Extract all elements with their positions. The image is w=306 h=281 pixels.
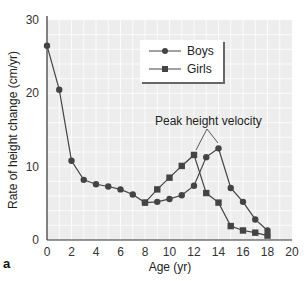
data-point-square-icon — [179, 163, 185, 169]
legend-marker-circle-icon — [162, 48, 168, 54]
x-tick-label: 18 — [261, 245, 275, 259]
x-tick-label: 16 — [236, 245, 250, 259]
data-point-circle-icon — [117, 186, 123, 192]
data-point-circle-icon — [44, 42, 50, 48]
data-point-circle-icon — [191, 183, 197, 189]
annotation-text: Peak height velocity — [155, 114, 262, 128]
x-tick-label: 8 — [142, 245, 149, 259]
y-axis-label: Rate of height change (cm/yr) — [6, 51, 20, 209]
legend-label-boys: Boys — [187, 44, 214, 58]
data-point-square-icon — [166, 174, 172, 180]
x-axis-label: Age (yr) — [149, 260, 192, 274]
data-point-circle-icon — [240, 199, 246, 205]
x-tick-label: 0 — [44, 245, 51, 259]
height-velocity-chart: 0102030 02468101214161820 Peak height ve… — [0, 0, 306, 281]
x-tick-label: 10 — [163, 245, 177, 259]
x-tick-label: 20 — [285, 245, 299, 259]
data-point-circle-icon — [81, 177, 87, 183]
y-tick-label: 10 — [26, 160, 40, 174]
x-tick-label: 2 — [68, 245, 75, 259]
data-point-circle-icon — [130, 191, 136, 197]
y-tick-label: 0 — [32, 233, 39, 247]
legend-marker-square-icon — [162, 66, 168, 72]
data-point-circle-icon — [154, 199, 160, 205]
data-point-square-icon — [191, 152, 197, 158]
data-point-circle-icon — [215, 145, 221, 151]
data-point-square-icon — [215, 199, 221, 205]
x-tick-label: 12 — [187, 245, 201, 259]
data-point-square-icon — [142, 199, 148, 205]
x-tick-label: 4 — [93, 245, 100, 259]
panel-label: a — [3, 256, 11, 271]
data-point-square-icon — [240, 227, 246, 233]
x-axis-ticks: 02468101214161820 — [44, 245, 299, 259]
data-point-square-icon — [154, 186, 160, 192]
data-point-circle-icon — [105, 183, 111, 189]
y-tick-label: 30 — [26, 13, 40, 27]
data-point-square-icon — [252, 229, 258, 235]
data-point-square-icon — [228, 223, 234, 229]
legend: Boys Girls — [140, 40, 225, 84]
data-point-square-icon — [264, 232, 270, 238]
data-point-circle-icon — [93, 181, 99, 187]
x-tick-label: 6 — [117, 245, 124, 259]
y-axis-ticks: 0102030 — [26, 13, 40, 247]
x-tick-label: 14 — [212, 245, 226, 259]
data-point-square-icon — [203, 190, 209, 196]
data-point-circle-icon — [56, 86, 62, 92]
data-point-circle-icon — [179, 192, 185, 198]
y-tick-label: 20 — [26, 86, 40, 100]
data-point-circle-icon — [166, 196, 172, 202]
legend-label-girls: Girls — [187, 62, 212, 76]
data-point-circle-icon — [68, 158, 74, 164]
data-point-circle-icon — [228, 185, 234, 191]
data-point-circle-icon — [252, 216, 258, 222]
data-point-circle-icon — [203, 154, 209, 160]
